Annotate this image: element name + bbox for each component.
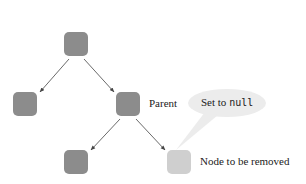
edge-root-left: [40, 59, 69, 92]
removed-node-label: Node to be removed: [200, 155, 290, 167]
node-parent-left-child: [64, 150, 88, 174]
node-root: [64, 32, 88, 56]
parent-label: Parent: [149, 97, 177, 109]
callout-text: Set to null: [201, 96, 253, 108]
node-left-child: [13, 92, 37, 116]
edge-root-parent: [84, 59, 114, 92]
node-parent: [116, 92, 140, 116]
callout-prefix: Set to: [201, 96, 229, 108]
node-to-be-removed: [167, 150, 191, 174]
callout-code: null: [229, 97, 253, 108]
edge-parent-removed: [136, 119, 165, 150]
edge-parent-left: [91, 119, 120, 150]
